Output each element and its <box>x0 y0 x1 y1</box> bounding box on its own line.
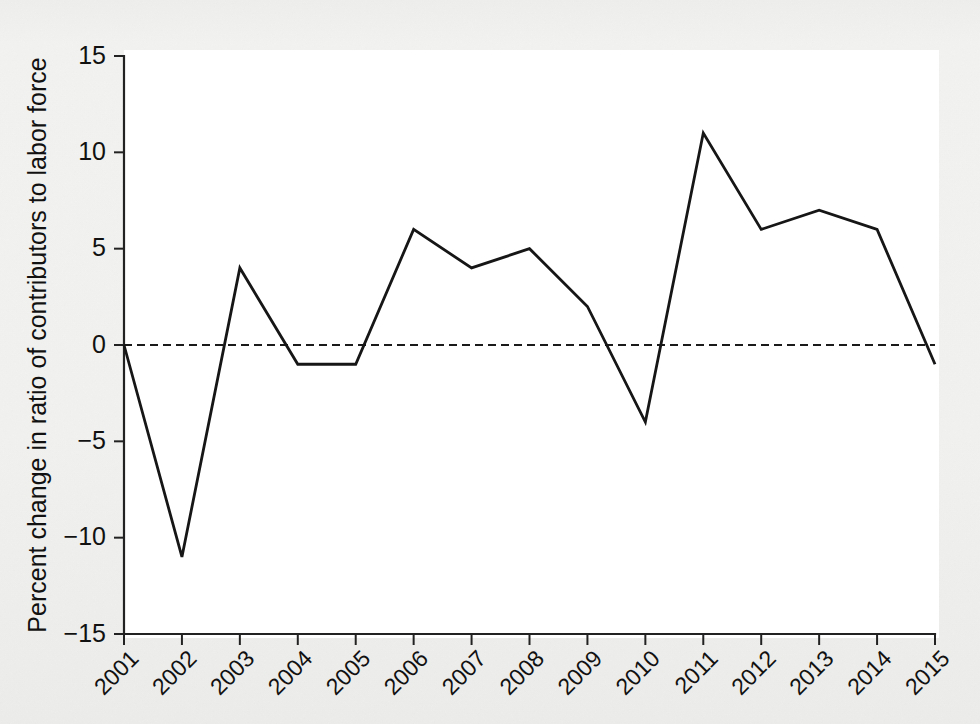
chart-figure: 151050−5−10−15 2001200220032004200520062… <box>0 0 980 724</box>
x-axis-tick-label: 2013 <box>784 645 839 700</box>
y-axis-tick-label: 0 <box>92 330 106 358</box>
line-chart: 151050−5−10−15 2001200220032004200520062… <box>0 0 980 724</box>
x-axis-tick-label: 2004 <box>263 645 318 700</box>
y-axis-tick-label: 15 <box>78 41 106 69</box>
x-axis-tick-label: 2003 <box>205 645 260 700</box>
x-axis-tick-label: 2002 <box>147 645 202 700</box>
y-axis-tick-label: 10 <box>78 137 106 165</box>
x-axis-tick-label: 2014 <box>842 645 897 700</box>
y-axis-ticks <box>114 56 124 634</box>
x-axis-tick-label: 2008 <box>494 645 549 700</box>
x-axis-tick-labels: 2001200220032004200520062007200820092010… <box>89 645 955 700</box>
x-axis-tick-label: 2006 <box>379 645 434 700</box>
x-axis-tick-label: 2001 <box>89 645 144 700</box>
y-axis-tick-labels: 151050−5−10−15 <box>64 41 106 647</box>
y-axis-tick-label: −5 <box>77 426 106 454</box>
x-axis-tick-label: 2009 <box>552 645 607 700</box>
x-axis-tick-label: 2005 <box>321 645 376 700</box>
y-axis-tick-label: 5 <box>92 233 106 261</box>
y-axis-label: Percent change in ratio of contributors … <box>23 57 51 632</box>
x-axis-tick-label: 2011 <box>669 645 722 698</box>
x-axis-tick-label: 2015 <box>900 645 955 700</box>
x-axis-tick-label: 2010 <box>610 645 665 700</box>
y-axis-tick-label: −15 <box>64 619 106 647</box>
y-axis-tick-label: −10 <box>64 522 106 550</box>
x-axis-tick-label: 2012 <box>726 645 781 700</box>
x-axis-tick-label: 2007 <box>437 645 492 700</box>
